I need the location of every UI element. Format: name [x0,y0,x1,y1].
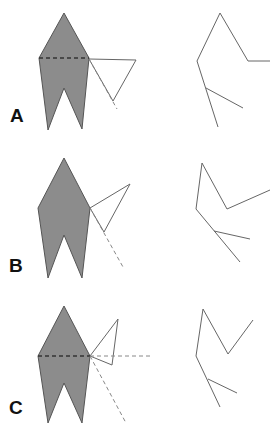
skeleton-branch [206,88,243,108]
panel-label: C [9,397,23,418]
triangle-outline [90,319,118,365]
panel-label: B [9,255,23,276]
skeleton-line [196,309,253,407]
shaded-shape [38,306,90,423]
triangle-outline [89,59,136,101]
triangle-outline [90,184,130,232]
shaded-shape [38,158,90,278]
panel-a: A [10,13,270,130]
skeleton-line [196,163,270,262]
panel-c: C [9,306,253,423]
dashed-diagonal [90,208,123,267]
panel-label: A [10,105,24,126]
shaded-shape [39,13,89,130]
dashed-diagonal [90,356,126,423]
diagram-canvas: ABC [0,0,275,424]
skeleton-line [197,13,270,127]
panel-b: B [9,158,270,278]
